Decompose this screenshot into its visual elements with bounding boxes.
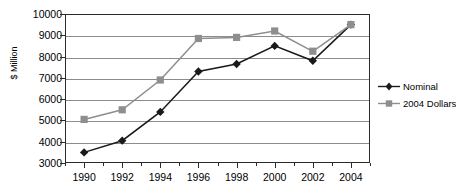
data-point-marker xyxy=(347,21,354,28)
legend-label-nominal: Nominal xyxy=(403,81,438,92)
y-axis-tick-label: 3000 xyxy=(18,158,62,168)
data-point-marker xyxy=(271,27,278,34)
x-axis-minor-tick-mark xyxy=(332,163,333,166)
y-axis-tick-label: 7000 xyxy=(18,73,62,83)
data-point-marker xyxy=(232,60,240,68)
x-axis-minor-tick-mark xyxy=(256,163,257,166)
series-lines xyxy=(65,14,370,163)
x-axis-tick-mark xyxy=(84,163,85,168)
data-point-marker xyxy=(271,42,279,50)
legend-key-diamond-icon xyxy=(378,81,400,92)
x-axis-tick-mark xyxy=(237,163,238,168)
x-axis-minor-tick-mark xyxy=(65,163,66,166)
legend-key-square-icon xyxy=(378,98,400,109)
x-axis-minor-tick-mark xyxy=(179,163,180,166)
x-axis-tick-mark xyxy=(275,163,276,168)
y-axis-tick-label: 4000 xyxy=(18,137,62,147)
y-axis-tick-label: 9000 xyxy=(18,30,62,40)
legend-label-2004-dollars: 2004 Dollars xyxy=(403,98,456,109)
data-point-marker xyxy=(157,76,164,83)
x-axis-minor-tick-mark xyxy=(218,163,219,166)
data-point-marker xyxy=(81,116,88,123)
legend-item-2004-dollars[interactable]: 2004 Dollars xyxy=(378,95,456,112)
legend-item-nominal[interactable]: Nominal xyxy=(378,78,456,95)
x-axis-tick-mark xyxy=(122,163,123,168)
data-point-marker xyxy=(80,148,88,156)
x-axis-tick-mark xyxy=(198,163,199,168)
data-point-marker xyxy=(119,106,126,113)
data-point-marker xyxy=(195,35,202,42)
x-axis-tick-mark xyxy=(351,163,352,168)
series-line-nominal xyxy=(84,25,351,153)
x-axis-tick-label: 2004 xyxy=(328,171,374,183)
x-axis-minor-tick-mark xyxy=(103,163,104,166)
y-axis-tick-label: 10000 xyxy=(18,9,62,19)
x-axis-minor-tick-mark xyxy=(370,163,371,166)
x-axis-tick-mark xyxy=(313,163,314,168)
y-axis-tick-label: 6000 xyxy=(18,94,62,104)
x-axis-tick-mark xyxy=(160,163,161,168)
x-axis-minor-tick-mark xyxy=(294,163,295,166)
y-axis-tick-label: 8000 xyxy=(18,52,62,62)
data-point-marker xyxy=(233,34,240,41)
y-axis-tick-label: 5000 xyxy=(18,115,62,125)
legend: Nominal 2004 Dollars xyxy=(378,78,456,112)
x-axis-minor-tick-mark xyxy=(141,163,142,166)
data-point-marker xyxy=(309,48,316,55)
series-line-2004-dollars xyxy=(84,25,351,120)
